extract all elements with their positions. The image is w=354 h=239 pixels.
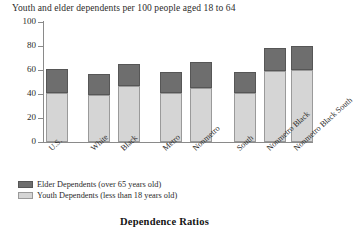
chart-title: Youth and elder dependents per 100 peopl… (12, 3, 236, 13)
plot-area (44, 22, 312, 142)
bar-segment-youth[interactable] (118, 86, 140, 142)
bar-segment-youth[interactable] (234, 93, 256, 142)
chart-legend: Elder Dependents (over 65 years old)Yout… (18, 179, 177, 201)
bar-segment-youth[interactable] (46, 93, 68, 142)
bar-u-s[interactable] (46, 69, 68, 142)
bar-segment-elder[interactable] (234, 72, 256, 92)
bar-segment-elder[interactable] (88, 74, 110, 96)
bar-black[interactable] (118, 64, 140, 142)
y-tick-label: 100 (0, 16, 36, 26)
legend-label: Youth Dependents (less than 18 years old… (37, 190, 177, 201)
bar-nonmetro-black[interactable] (264, 48, 286, 142)
y-tick-label: 60 (0, 64, 36, 74)
bar-segment-youth[interactable] (160, 93, 182, 142)
bar-segment-elder[interactable] (264, 48, 286, 71)
bar-south[interactable] (234, 72, 256, 142)
legend-item[interactable]: Youth Dependents (less than 18 years old… (18, 190, 177, 201)
bar-segment-elder[interactable] (118, 64, 140, 86)
bar-segment-elder[interactable] (46, 69, 68, 93)
bar-white[interactable] (88, 74, 110, 142)
bar-segment-elder[interactable] (291, 46, 313, 70)
bar-segment-elder[interactable] (160, 72, 182, 92)
y-tick-label: 20 (0, 112, 36, 122)
legend-swatch-elder (18, 181, 33, 188)
y-tick-label: 0 (0, 136, 36, 146)
bar-metro[interactable] (160, 72, 182, 142)
legend-swatch-youth (18, 192, 33, 199)
y-tick-label: 80 (0, 40, 36, 50)
y-tick-label: 40 (0, 88, 36, 98)
chart-caption: Dependence Ratios (0, 216, 329, 227)
legend-label: Elder Dependents (over 65 years old) (37, 179, 161, 190)
legend-item[interactable]: Elder Dependents (over 65 years old) (18, 179, 177, 190)
bar-segment-elder[interactable] (190, 62, 212, 88)
y-tick-mark (38, 142, 44, 143)
